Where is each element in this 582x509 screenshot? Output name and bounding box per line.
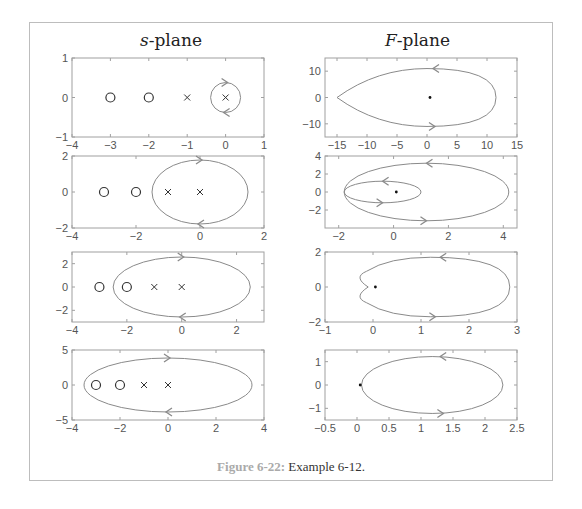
- svg-text:2: 2: [445, 230, 451, 242]
- svg-text:0: 0: [315, 186, 321, 198]
- figure-caption: Figure 6-22: Example 6-12.: [0, 459, 582, 475]
- critical-point: [395, 191, 398, 194]
- svg-text:1: 1: [418, 422, 424, 434]
- plot-panel: −4−3−2−101−101: [55, 52, 267, 151]
- svg-text:0: 0: [315, 92, 321, 104]
- svg-text:−2: −2: [143, 139, 156, 151]
- svg-text:4: 4: [315, 150, 321, 162]
- svg-text:2: 2: [482, 422, 488, 434]
- svg-text:−5: −5: [55, 414, 68, 426]
- svg-text:−1: −1: [55, 131, 68, 143]
- svg-text:2: 2: [62, 258, 68, 270]
- svg-text:4: 4: [261, 422, 267, 434]
- svg-text:−1: −1: [181, 139, 194, 151]
- plot-panel: −4−202−202: [55, 252, 264, 336]
- caption-text: Example 6-12.: [285, 459, 365, 474]
- svg-text:2.5: 2.5: [509, 422, 524, 434]
- svg-text:2: 2: [234, 324, 240, 336]
- svg-text:−2: −2: [121, 324, 134, 336]
- svg-text:1.5: 1.5: [445, 422, 460, 434]
- nyquist-plots: −4−3−2−101−101−15−10−5051015−10010−4−202…: [0, 0, 582, 509]
- svg-text:0.5: 0.5: [381, 422, 396, 434]
- plot-panel: −0.500.511.522.5−101: [308, 350, 524, 434]
- svg-text:3: 3: [514, 324, 520, 336]
- svg-text:−2: −2: [308, 316, 321, 328]
- svg-text:−2: −2: [55, 304, 68, 316]
- svg-text:0: 0: [62, 379, 68, 391]
- plot-panel: −15−10−5051015−10010: [302, 58, 523, 151]
- svg-text:2: 2: [261, 230, 267, 242]
- svg-text:0: 0: [370, 324, 376, 336]
- svg-text:1: 1: [62, 52, 68, 64]
- svg-text:10: 10: [481, 139, 493, 151]
- plot-panel: −10123−202: [308, 246, 520, 336]
- svg-text:−2: −2: [55, 222, 68, 234]
- svg-text:0: 0: [197, 230, 203, 242]
- svg-text:5: 5: [62, 344, 68, 356]
- svg-text:1: 1: [315, 356, 321, 368]
- svg-text:0: 0: [315, 379, 321, 391]
- svg-text:2: 2: [213, 422, 219, 434]
- svg-text:−1: −1: [308, 402, 321, 414]
- svg-text:2: 2: [62, 150, 68, 162]
- plot-panel: −4−2024−505: [55, 344, 267, 434]
- critical-point: [429, 96, 432, 99]
- svg-text:1: 1: [418, 324, 424, 336]
- svg-text:0: 0: [315, 281, 321, 293]
- svg-text:−2: −2: [332, 230, 345, 242]
- svg-text:2: 2: [466, 324, 472, 336]
- svg-text:−3: −3: [104, 139, 117, 151]
- svg-text:−10: −10: [358, 139, 377, 151]
- svg-text:−10: −10: [302, 118, 321, 130]
- svg-text:−2: −2: [130, 230, 143, 242]
- svg-text:−4: −4: [66, 324, 79, 336]
- svg-text:2: 2: [315, 246, 321, 258]
- svg-text:0: 0: [62, 186, 68, 198]
- plot-panel: −4−202−202: [55, 150, 267, 242]
- svg-text:0: 0: [62, 281, 68, 293]
- svg-text:0: 0: [354, 422, 360, 434]
- svg-text:5: 5: [454, 139, 460, 151]
- caption-label: Figure 6-22:: [217, 459, 285, 474]
- plot-panel: −2024−2024: [308, 150, 517, 242]
- critical-point: [359, 384, 362, 387]
- svg-text:−2: −2: [308, 204, 321, 216]
- svg-text:−5: −5: [391, 139, 404, 151]
- svg-text:10: 10: [309, 65, 321, 77]
- svg-text:0: 0: [62, 92, 68, 104]
- svg-text:0: 0: [424, 139, 430, 151]
- svg-text:0: 0: [391, 230, 397, 242]
- svg-text:−0.5: −0.5: [314, 422, 336, 434]
- svg-text:4: 4: [500, 230, 506, 242]
- svg-text:−15: −15: [328, 139, 347, 151]
- svg-text:2: 2: [315, 168, 321, 180]
- svg-text:1: 1: [261, 139, 267, 151]
- svg-text:0: 0: [179, 324, 185, 336]
- svg-text:0: 0: [223, 139, 229, 151]
- critical-point: [374, 286, 377, 289]
- svg-text:15: 15: [511, 139, 523, 151]
- svg-text:−2: −2: [114, 422, 127, 434]
- svg-text:0: 0: [165, 422, 171, 434]
